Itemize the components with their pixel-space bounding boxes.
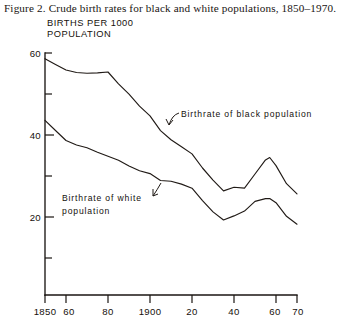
x-tick-label-1970: 70 (292, 306, 303, 317)
leader-arrow-black-series (166, 119, 173, 125)
x-tick-label-1940: 40 (228, 306, 239, 317)
birth-rate-line-chart: BIRTHS PER 1000 POPULATION 60 40 20 1850… (0, 0, 360, 326)
x-tick-label-1850: 1850 (34, 306, 57, 317)
y-tick-label-60: 60 (30, 48, 41, 59)
annotation-black-series: Birthrate of black population (181, 109, 312, 119)
x-tick-label-1920: 20 (186, 306, 197, 317)
y-tick-label-20: 20 (30, 212, 41, 223)
y-axis-title-line1: BIRTHS PER 1000 (47, 18, 133, 28)
x-tick-label-1860: 60 (63, 306, 74, 317)
x-tick-label-1880: 80 (102, 306, 113, 317)
y-axis-title-line2: POPULATION (47, 29, 111, 39)
annotation-white-series-line1: Birthrate of white (62, 193, 142, 203)
y-tick-label-40: 40 (30, 130, 41, 141)
x-tick-label-1900: 1900 (139, 306, 162, 317)
chart-plot-area: BIRTHS PER 1000 POPULATION 60 40 20 1850… (0, 0, 360, 326)
annotation-white-series-line2: population (62, 206, 110, 216)
series-line-black-population (45, 59, 297, 194)
x-tick-label-1960: 60 (269, 306, 280, 317)
